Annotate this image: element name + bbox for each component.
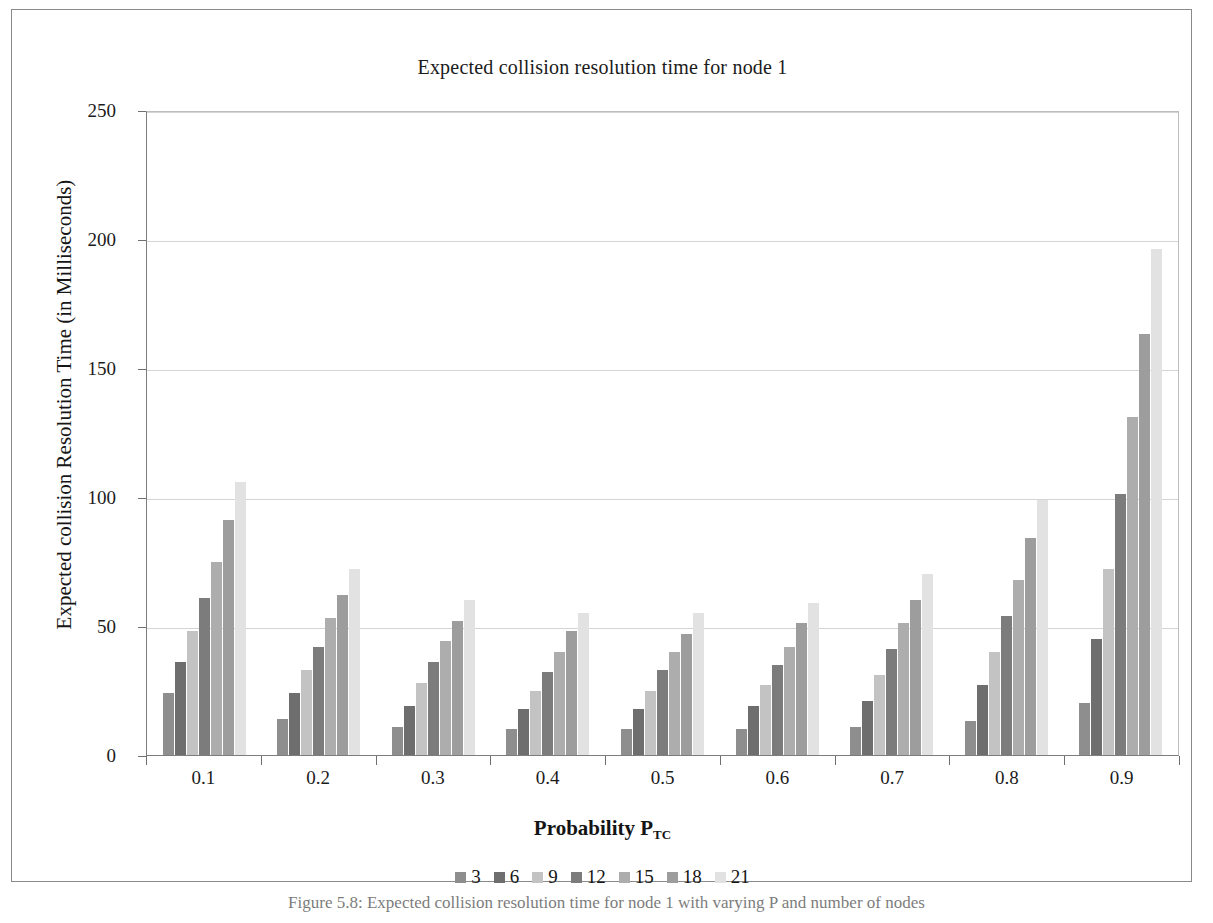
bar [325, 618, 336, 755]
x-tick-mark [376, 756, 377, 765]
x-tick-mark [146, 756, 147, 765]
bar [554, 652, 565, 755]
bar [736, 729, 747, 755]
bar-group [605, 112, 720, 755]
x-tick-label: 0.3 [376, 767, 491, 801]
legend-swatch-icon [619, 872, 630, 883]
bar-group [491, 112, 606, 755]
legend-item[interactable]: 12 [571, 866, 606, 888]
bar [1091, 639, 1102, 755]
legend-item[interactable]: 21 [715, 866, 750, 888]
bar [669, 652, 680, 755]
legend: 36912151821 [12, 866, 1193, 888]
bar [404, 706, 415, 755]
legend-item[interactable]: 3 [455, 866, 481, 888]
x-tick-label: 0.5 [605, 767, 720, 801]
plot-area [146, 111, 1179, 756]
x-tick-label: 0.2 [261, 767, 376, 801]
bar [416, 683, 427, 755]
legend-swatch-icon [494, 872, 505, 883]
bar [633, 709, 644, 755]
legend-swatch-icon [715, 872, 726, 883]
bar [518, 709, 529, 755]
bar [1025, 538, 1036, 755]
x-tick-label: 0.7 [835, 767, 950, 801]
bar-group [376, 112, 491, 755]
bar-groups [147, 112, 1178, 755]
x-tick-label: 0.1 [146, 767, 261, 801]
x-tick-mark [261, 756, 262, 765]
x-tick-label: 0.6 [720, 767, 835, 801]
legend-item[interactable]: 9 [532, 866, 558, 888]
bar [808, 603, 819, 755]
bar-group [1064, 112, 1179, 755]
bar [289, 693, 300, 755]
legend-label: 18 [683, 866, 702, 888]
x-axis-title-subscript: TC [653, 827, 671, 842]
x-tick-mark [490, 756, 491, 765]
legend-item[interactable]: 15 [619, 866, 654, 888]
figure-frame: Expected collision resolution time for n… [11, 9, 1192, 882]
bar [1151, 249, 1162, 755]
bar [760, 685, 771, 755]
legend-label: 21 [731, 866, 750, 888]
bar [621, 729, 632, 755]
bar-group [720, 112, 835, 755]
bar [910, 600, 921, 755]
bar [175, 662, 186, 755]
bar [452, 621, 463, 755]
bar-group [949, 112, 1064, 755]
x-tick-mark [605, 756, 606, 765]
bar [506, 729, 517, 755]
bar [440, 641, 451, 755]
bar [277, 719, 288, 755]
bar [349, 569, 360, 755]
bar [1013, 580, 1024, 755]
bar [850, 727, 861, 755]
bar [187, 631, 198, 755]
x-tick-label: 0.9 [1064, 767, 1179, 801]
bar [886, 649, 897, 755]
bar [796, 623, 807, 755]
bar [337, 595, 348, 755]
x-tick-mark [720, 756, 721, 765]
bar [566, 631, 577, 755]
bar [542, 672, 553, 755]
bar [392, 727, 403, 755]
bar [874, 675, 885, 755]
bar [301, 670, 312, 755]
bar [681, 634, 692, 755]
bar [163, 693, 174, 755]
bar [578, 613, 589, 755]
bar [748, 706, 759, 755]
legend-label: 12 [587, 866, 606, 888]
x-tick-mark [1179, 756, 1180, 765]
legend-label: 6 [510, 866, 520, 888]
legend-item[interactable]: 6 [494, 866, 520, 888]
bar [1001, 616, 1012, 755]
legend-label: 3 [471, 866, 481, 888]
legend-swatch-icon [667, 872, 678, 883]
bar [1037, 500, 1048, 755]
x-tick-label: 0.8 [949, 767, 1064, 801]
x-axis-title-text: Probability P [534, 816, 653, 840]
bar [772, 665, 783, 755]
bar-group [147, 112, 262, 755]
bar [1127, 417, 1138, 755]
bar [965, 721, 976, 755]
legend-item[interactable]: 18 [667, 866, 702, 888]
x-tick-mark [949, 756, 950, 765]
y-axis-ticks [12, 111, 152, 756]
legend-label: 9 [548, 866, 558, 888]
bar [898, 623, 909, 755]
bar-group [262, 112, 377, 755]
x-tick-mark [1064, 756, 1065, 765]
legend-swatch-icon [532, 872, 543, 883]
bar [784, 647, 795, 755]
bar [235, 482, 246, 755]
x-axis-title: Probability PTC [12, 816, 1193, 841]
legend-swatch-icon [455, 872, 466, 883]
bar [1079, 703, 1090, 755]
x-axis-tick-labels: 0.10.20.30.40.50.60.70.80.9 [146, 767, 1179, 801]
bar [862, 701, 873, 755]
